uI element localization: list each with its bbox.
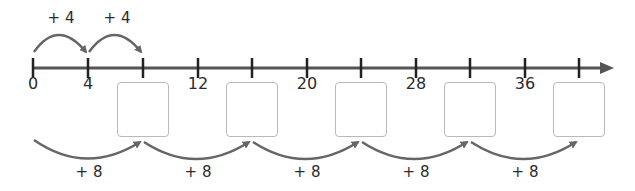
answer-box-5[interactable] <box>553 82 605 137</box>
bottom-jump-label-4: + 8 <box>403 165 430 180</box>
tick-label-0: 0 <box>28 76 38 92</box>
arrow-right-icon <box>600 62 614 74</box>
tick-label-36: 36 <box>515 76 535 92</box>
answer-box-2[interactable] <box>226 82 278 137</box>
bottom-jump-label-3: + 8 <box>294 165 321 180</box>
answer-box-3[interactable] <box>335 82 387 137</box>
tick-label-4: 4 <box>83 76 93 92</box>
answer-box-1[interactable] <box>117 82 169 137</box>
bottom-jump-label-2: + 8 <box>185 165 212 180</box>
bottom-jump-label-1: + 8 <box>76 165 103 180</box>
top-jump-label-1: + 4 <box>48 11 75 26</box>
bottom-jump-arcs <box>34 140 576 159</box>
tick-label-12: 12 <box>188 76 208 92</box>
bottom-jump-label-5: + 8 <box>512 165 539 180</box>
tick-label-20: 20 <box>297 76 317 92</box>
top-jump-arcs <box>34 35 141 52</box>
tick-label-28: 28 <box>406 76 426 92</box>
top-jump-label-2: + 4 <box>104 11 131 26</box>
answer-box-4[interactable] <box>444 82 496 137</box>
